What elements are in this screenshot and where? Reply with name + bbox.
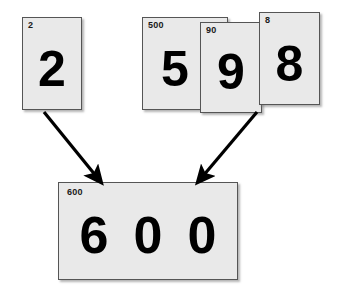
card-digit: 8 — [260, 39, 319, 89]
card-tag: 600 — [67, 188, 83, 197]
result-digit-ones: 0 — [188, 209, 217, 261]
card-digit: 9 — [201, 47, 261, 97]
result-digit-hundreds: 6 — [80, 209, 109, 261]
card-tag: 500 — [148, 21, 164, 30]
arrow-card-90[interactable]: 90 9 — [200, 22, 262, 113]
arrow-left-icon — [44, 112, 96, 176]
card-digit: 2 — [23, 44, 81, 94]
card-digit: 5 — [149, 44, 201, 94]
result-digits: 6 0 0 — [67, 209, 229, 261]
card-tag: 90 — [206, 26, 216, 35]
arrow-card-600-result[interactable]: 600 6 0 0 — [58, 182, 238, 280]
card-tag: 2 — [28, 21, 33, 30]
figure-canvas: 2 2 500 5 90 9 8 8 600 6 0 0 — [0, 0, 342, 293]
result-digit-tens: 0 — [134, 209, 163, 261]
arrow-card-8[interactable]: 8 8 — [259, 12, 320, 105]
card-tag: 8 — [265, 16, 270, 25]
arrow-right-icon — [203, 112, 257, 176]
arrow-card-2[interactable]: 2 2 — [22, 17, 82, 110]
